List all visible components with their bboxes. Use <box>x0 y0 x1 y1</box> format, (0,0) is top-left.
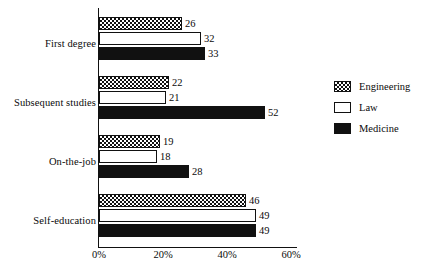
category-label-text: Self-education <box>4 215 96 226</box>
x-axis-line <box>98 247 297 248</box>
bar-value-medicine-first-degree: 33 <box>208 47 219 60</box>
checkered-swatch-icon <box>334 81 351 92</box>
legend-item-engineering[interactable]: Engineering <box>334 78 430 99</box>
category-label-text: First degree <box>4 38 96 49</box>
bar-chart: First degree Subsequent studies On-the-j… <box>0 0 431 276</box>
legend-label-medicine: Medicine <box>359 120 399 137</box>
bar-medicine-subsequent-studies[interactable] <box>99 106 265 119</box>
bar-value-medicine-self-education: 49 <box>259 224 270 237</box>
bar-medicine-first-degree[interactable] <box>99 47 205 60</box>
bar-value-engineering-first-degree: 26 <box>185 17 196 30</box>
bar-engineering-self-education[interactable] <box>99 194 246 207</box>
bar-engineering-subsequent-studies[interactable] <box>99 76 169 89</box>
bar-value-medicine-on-the-job: 28 <box>192 165 203 178</box>
bar-value-law-first-degree: 32 <box>204 32 215 45</box>
bar-value-law-on-the-job: 18 <box>160 150 171 163</box>
bar-medicine-self-education[interactable] <box>99 224 256 237</box>
legend-label-engineering: Engineering <box>359 78 410 95</box>
bar-engineering-first-degree[interactable] <box>99 17 182 30</box>
legend-item-law[interactable]: Law <box>334 99 430 120</box>
black-swatch-icon <box>334 123 351 134</box>
bar-law-self-education[interactable] <box>99 209 256 222</box>
bar-medicine-on-the-job[interactable] <box>99 165 189 178</box>
legend-item-medicine[interactable]: Medicine <box>334 120 430 141</box>
bar-law-subsequent-studies[interactable] <box>99 91 166 104</box>
bar-law-first-degree[interactable] <box>99 32 201 45</box>
x-tick-40: 40% <box>217 249 236 260</box>
legend-label-law: Law <box>359 99 378 116</box>
white-swatch-icon <box>334 102 351 113</box>
bar-value-engineering-self-education: 46 <box>249 194 260 207</box>
x-tick-0: 0% <box>92 249 106 260</box>
bar-value-medicine-subsequent-studies: 52 <box>268 106 279 119</box>
category-label-text: Subsequent studies <box>4 97 96 108</box>
bar-value-law-subsequent-studies: 21 <box>169 91 180 104</box>
x-tick-20: 20% <box>153 249 172 260</box>
category-label-text: On-the-job <box>4 156 96 167</box>
bar-engineering-on-the-job[interactable] <box>99 135 160 148</box>
bar-law-on-the-job[interactable] <box>99 150 157 163</box>
bar-value-engineering-on-the-job: 19 <box>163 135 174 148</box>
bar-value-engineering-subsequent-studies: 22 <box>172 76 183 89</box>
legend: Engineering Law Medicine <box>334 78 430 141</box>
bar-value-law-self-education: 49 <box>259 209 270 222</box>
x-tick-60: 60% <box>281 249 300 260</box>
